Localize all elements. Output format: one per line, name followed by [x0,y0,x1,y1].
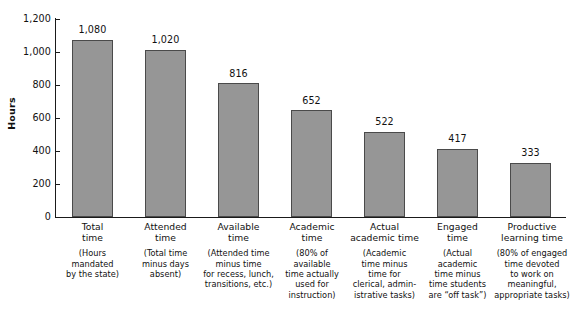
x-note-attended-time-line1: (Total time [128,248,203,258]
x-label-productive-learning-time: Productive learning time (80% of engaged… [487,221,577,300]
y-tick-label-200-wrap: 200 [0,178,51,190]
x-note-available-time: (Attended time minus time for recess, lu… [196,248,281,289]
bar-engaged-time[interactable] [437,149,478,217]
y-tick-label-0-wrap: 0 [0,211,51,223]
x-axis-line [55,217,566,218]
bar-value-available-time: 816 [208,68,269,79]
y-tick-label-200: 200 [3,178,51,189]
bar-chart: Hours 1,200 1,000 800 600 400 200 0 1,08… [0,0,577,311]
x-note-actual-academic-time-line5: istrative tasks) [341,290,428,300]
x-note-total-time-line1: (Hours [55,248,130,258]
x-label-attended-time-line1: Attended [128,221,203,232]
y-tick-label-0: 0 [3,211,51,222]
x-label-academic-time-line2: time [277,232,347,243]
y-tick-mark-600 [55,118,60,119]
x-label-total-time: Total time (Hours mandated by the state) [55,221,130,279]
x-note-attended-time-line3: absent) [128,269,203,279]
x-note-academic-time: (80% of available time actually used for… [277,248,347,299]
x-note-available-time-line3: for recess, lunch, [196,269,281,279]
bar-value-engaged-time: 417 [427,133,488,144]
y-tick-label-600: 600 [3,112,51,123]
x-note-total-time-line3: by the state) [55,269,130,279]
y-tick-mark-1200 [55,19,60,20]
x-note-academic-time-line3: time actually [277,269,347,279]
x-note-productive-learning-time-line3: to work on [487,269,577,279]
x-label-available-time-line2: time [196,232,281,243]
bar-value-productive-learning-time: 333 [500,147,561,158]
x-label-engaged-time-line1: Engaged [419,221,496,232]
y-tick-label-1000-wrap: 1,000 [0,46,51,58]
bar-attended-time[interactable] [145,50,186,217]
x-note-engaged-time-line3: time minus [419,269,496,279]
x-label-engaged-time-line2: time [419,232,496,243]
x-note-productive-learning-time: (80% of engaged time devoted to work on … [487,248,577,299]
x-note-available-time-line4: transitions, etc.) [196,279,281,289]
x-label-productive-learning-time-line1: Productive [487,221,577,232]
x-label-attended-time-line2: time [128,232,203,243]
x-note-engaged-time: (Actual academic time minus time student… [419,248,496,299]
x-label-academic-time: Academic time (80% of available time act… [277,221,347,300]
x-note-total-time-line2: mandated [55,259,130,269]
y-tick-label-400: 400 [3,145,51,156]
x-note-attended-time-line2: minus days [128,259,203,269]
x-note-productive-learning-time-line4: meaningful, [487,279,577,289]
bar-available-time[interactable] [218,83,259,217]
x-note-actual-academic-time-line1: (Academic [341,248,428,258]
x-note-actual-academic-time-line2: time minus [341,259,428,269]
y-tick-mark-400 [55,151,60,152]
x-note-productive-learning-time-line2: time devoted [487,259,577,269]
y-tick-label-800-wrap: 800 [0,79,51,91]
x-label-engaged-time: Engaged time (Actual academic time minus… [419,221,496,300]
y-tick-mark-200 [55,184,60,185]
x-label-academic-time-line1: Academic [277,221,347,232]
x-note-productive-learning-time-line1: (80% of engaged [487,248,577,258]
bar-total-time[interactable] [72,40,113,217]
x-label-total-time-line1: Total [55,221,130,232]
x-note-academic-time-line4: used for [277,279,347,289]
x-note-productive-learning-time-line5: appropriate tasks) [487,290,577,300]
y-tick-label-400-wrap: 400 [0,145,51,157]
bar-value-total-time: 1,080 [62,24,123,35]
x-note-engaged-time-line2: academic [419,259,496,269]
x-note-actual-academic-time-line4: clerical, admin- [341,279,428,289]
bar-value-academic-time: 652 [281,95,342,106]
x-note-available-time-line1: (Attended time [196,248,281,258]
x-note-academic-time-line1: (80% of [277,248,347,258]
y-tick-label-600-wrap: 600 [0,112,51,124]
y-tick-mark-1000 [55,52,60,53]
bar-value-attended-time: 1,020 [135,34,196,45]
x-note-engaged-time-line4: time students [419,279,496,289]
y-tick-label-800: 800 [3,79,51,90]
y-tick-mark-800 [55,85,60,86]
y-tick-label-1000: 1,000 [3,46,51,57]
x-note-available-time-line2: minus time [196,259,281,269]
x-label-actual-academic-time: Actual academic time (Academic time minu… [341,221,428,300]
y-tick-label-1200-wrap: 1,200 [0,13,51,25]
x-label-productive-learning-time-line2: learning time [487,232,577,243]
x-label-available-time: Available time (Attended time minus time… [196,221,281,290]
x-note-actual-academic-time: (Academic time minus time for clerical, … [341,248,428,299]
x-label-total-time-line2: time [55,232,130,243]
x-note-academic-time-line2: available [277,259,347,269]
x-note-actual-academic-time-line3: time for [341,269,428,279]
x-note-engaged-time-line1: (Actual [419,248,496,258]
x-label-available-time-line1: Available [196,221,281,232]
bar-actual-academic-time[interactable] [364,132,405,217]
bar-value-actual-academic-time: 522 [354,116,415,127]
bar-academic-time[interactable] [291,110,332,217]
x-note-total-time: (Hours mandated by the state) [55,248,130,279]
y-tick-label-1200: 1,200 [3,13,51,24]
x-label-actual-academic-time-line1: Actual [341,221,428,232]
bar-productive-learning-time[interactable] [510,163,551,217]
x-note-engaged-time-line5: are “off task”) [419,290,496,300]
x-note-attended-time: (Total time minus days absent) [128,248,203,279]
x-label-actual-academic-time-line2: academic time [341,232,428,243]
x-label-attended-time: Attended time (Total time minus days abs… [128,221,203,279]
x-note-academic-time-line5: instruction) [277,290,347,300]
